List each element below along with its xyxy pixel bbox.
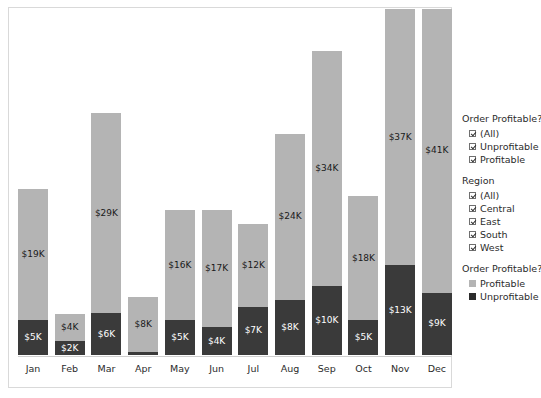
bar-segment-profitable[interactable]: $41K [422,9,452,293]
checkbox-checked-icon[interactable] [469,244,476,251]
legend-group: Order Profitable?ProfitableUnprofitable [462,263,541,303]
legend-color-swatch [469,280,476,287]
x-axis-tick-jul: Jul [238,360,268,380]
legend-item-label: East [480,216,501,228]
legend-checkbox-row-all[interactable]: (All) [462,127,541,140]
x-axis-tick-feb: Feb [55,360,85,380]
x-axis-tick-oct: Oct [348,360,378,380]
bar-value-label: $4K [208,337,225,346]
bar-segment-unprofitable[interactable]: $10K [312,286,342,355]
plot-area: $19K$5K$4K$2K$29K$6K$8K$16K$5K$17K$4K$12… [8,7,452,388]
legend-group-title: Order Profitable? [462,113,541,124]
bar-value-label: $10K [315,316,338,325]
legend-key-row-profitable: Profitable [462,277,541,290]
bar-value-label: $34K [315,164,338,173]
bar-value-label: $17K [205,264,228,273]
bar-column[interactable]: $16K$5K [165,9,195,355]
bar-segment-profitable[interactable]: $37K [385,9,415,265]
bar-value-label: $6K [98,330,115,339]
legend-item-label: Profitable [480,278,525,290]
legend-checkbox-row-east[interactable]: East [462,215,541,228]
checkbox-checked-icon[interactable] [469,218,476,225]
legend-panel[interactable]: Order Profitable?(All)UnprofitableProfit… [462,113,541,312]
x-axis-tick-may: May [165,360,195,380]
x-axis-tick-dec: Dec [422,360,452,380]
x-axis-labels: JanFebMarAprMayJunJulAugSepOctNovDec [18,360,452,380]
legend-item-label: West [480,242,503,254]
x-axis-tick-mar: Mar [91,360,121,380]
bar-column[interactable]: $37K$13K [385,9,415,355]
bar-segment-unprofitable[interactable]: $8K [275,300,305,355]
bar-value-label: $7K [245,326,262,335]
bar-value-label: $8K [281,323,298,332]
bar-column[interactable]: $8K [128,9,158,355]
bar-value-label: $9K [428,319,445,328]
bar-value-label: $2K [61,344,78,353]
bar-segment-unprofitable[interactable]: $5K [348,320,378,355]
bar-value-label: $41K [425,146,448,155]
legend-item-label: (All) [480,190,499,202]
chart-page: $19K$5K$4K$2K$29K$6K$8K$16K$5K$17K$4K$12… [0,0,541,398]
legend-item-label: (All) [480,128,499,140]
bar-segment-profitable[interactable]: $4K [55,314,85,342]
legend-checkbox-row-south[interactable]: South [462,228,541,241]
legend-item-label: Central [480,203,515,215]
legend-checkbox-row-profitable[interactable]: Profitable [462,153,541,166]
bar-segment-unprofitable[interactable]: $5K [165,320,195,355]
bar-value-label: $37K [389,133,412,142]
bar-column[interactable]: $24K$8K [275,9,305,355]
bar-segment-profitable[interactable]: $8K [128,297,158,352]
bar-value-label: $29K [95,209,118,218]
bar-segment-profitable[interactable]: $17K [202,210,232,328]
bar-segment-profitable[interactable]: $19K [18,189,48,320]
legend-checkbox-row-west[interactable]: West [462,241,541,254]
bar-column[interactable]: $34K$10K [312,9,342,355]
checkbox-checked-icon[interactable] [469,231,476,238]
bar-column[interactable]: $17K$4K [202,9,232,355]
bar-column[interactable]: $19K$5K [18,9,48,355]
bar-column[interactable]: $18K$5K [348,9,378,355]
bar-value-label: $5K [171,333,188,342]
x-axis-tick-apr: Apr [128,360,158,380]
bar-segment-unprofitable[interactable]: $2K [55,341,85,355]
legend-item-label: South [480,229,508,241]
bar-segment-unprofitable[interactable]: $4K [202,327,232,355]
bar-value-label: $12K [242,261,265,270]
legend-checkbox-row-unprofitable[interactable]: Unprofitable [462,140,541,153]
bar-value-label: $8K [134,320,151,329]
bar-column[interactable]: $12K$7K [238,9,268,355]
bar-segment-profitable[interactable]: $29K [91,113,121,314]
bar-segment-unprofitable[interactable]: $9K [422,293,452,355]
checkbox-checked-icon[interactable] [469,156,476,163]
legend-item-label: Unprofitable [480,141,539,153]
bar-segment-profitable[interactable]: $18K [348,196,378,321]
bar-segment-unprofitable[interactable]: $5K [18,320,48,355]
x-axis-tick-nov: Nov [385,360,415,380]
bar-segment-profitable[interactable]: $16K [165,210,195,321]
x-axis-line [18,356,452,357]
x-axis-tick-jan: Jan [18,360,48,380]
x-axis-tick-jun: Jun [202,360,232,380]
checkbox-checked-icon[interactable] [469,130,476,137]
legend-key-row-unprofitable: Unprofitable [462,290,541,303]
checkbox-checked-icon[interactable] [469,205,476,212]
checkbox-checked-icon[interactable] [469,143,476,150]
bar-segment-unprofitable[interactable] [128,352,158,355]
checkbox-checked-icon[interactable] [469,192,476,199]
bar-value-label: $5K [355,333,372,342]
bar-segment-profitable[interactable]: $12K [238,224,268,307]
bar-segment-unprofitable[interactable]: $6K [91,313,121,355]
bar-column[interactable]: $29K$6K [91,9,121,355]
bar-value-label: $24K [278,212,301,221]
bar-column[interactable]: $41K$9K [422,9,452,355]
legend-group: Order Profitable?(All)UnprofitableProfit… [462,113,541,166]
legend-checkbox-row-all[interactable]: (All) [462,189,541,202]
bar-segment-profitable[interactable]: $34K [312,51,342,286]
bar-value-label: $4K [61,323,78,332]
legend-checkbox-row-central[interactable]: Central [462,202,541,215]
bar-segment-unprofitable[interactable]: $7K [238,307,268,355]
bar-segment-profitable[interactable]: $24K [275,134,305,300]
x-axis-tick-sep: Sep [312,360,342,380]
bar-column[interactable]: $4K$2K [55,9,85,355]
bar-segment-unprofitable[interactable]: $13K [385,265,415,355]
